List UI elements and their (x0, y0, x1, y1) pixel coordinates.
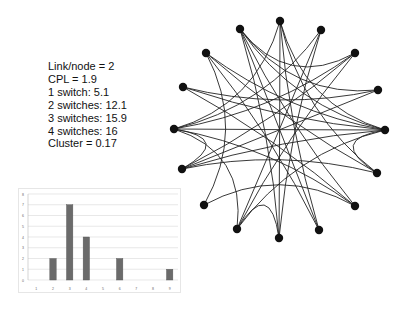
y-tick-label: 5 (22, 225, 24, 229)
x-tick-label: 1 (35, 287, 37, 291)
y-tick-label: 3 (22, 246, 24, 250)
y-tick-label: 8 (22, 193, 24, 197)
x-tick-label: 7 (135, 287, 137, 291)
x-tick-label: 5 (102, 287, 104, 291)
degree-histogram: 012345678 123456789 (0, 0, 406, 310)
bar (66, 205, 72, 280)
bar (50, 259, 56, 281)
x-tick-label: 6 (119, 287, 121, 291)
chart-y-tick-labels: 012345678 (22, 193, 24, 283)
x-tick-label: 4 (85, 287, 87, 291)
y-tick-label: 1 (22, 268, 24, 272)
y-tick-label: 7 (22, 203, 24, 207)
x-tick-label: 8 (152, 287, 154, 291)
x-tick-label: 2 (52, 287, 54, 291)
bar (166, 269, 172, 280)
x-tick-label: 3 (69, 287, 71, 291)
y-tick-label: 4 (22, 236, 24, 240)
y-tick-label: 6 (22, 214, 24, 218)
bar (83, 237, 89, 280)
y-tick-label: 2 (22, 257, 24, 261)
x-tick-label: 9 (169, 287, 171, 291)
chart-x-tick-labels: 123456789 (35, 287, 170, 291)
bar (116, 259, 122, 281)
y-tick-label: 0 (22, 279, 24, 283)
chart-bars (50, 205, 173, 280)
